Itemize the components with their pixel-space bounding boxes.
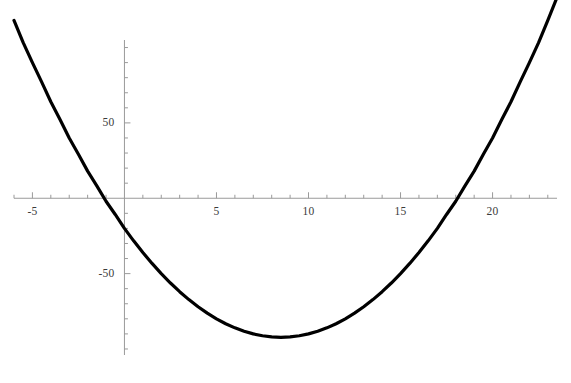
x-tick-label: 10 <box>303 206 315 218</box>
x-tick-label: -5 <box>27 206 37 218</box>
axes-group <box>14 40 557 355</box>
data-series-group <box>14 0 557 337</box>
y-tick-label: 50 <box>0 117 114 129</box>
x-tick-label: 20 <box>487 206 499 218</box>
parabola-curve <box>14 0 557 337</box>
y-tick-label: -50 <box>0 268 114 280</box>
x-tick-label: 15 <box>395 206 407 218</box>
plot-canvas <box>0 0 571 383</box>
x-tick-label: 5 <box>213 206 219 218</box>
chart-figure: -55101520 50-50 <box>0 0 571 383</box>
x-axis-ticks <box>14 192 548 198</box>
